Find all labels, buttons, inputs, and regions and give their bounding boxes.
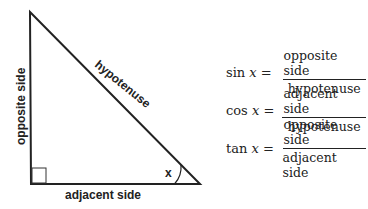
angle-arc	[175, 165, 182, 184]
variable: x	[252, 141, 259, 156]
adjacent-side-label: adjacent side	[65, 188, 141, 202]
variable: x	[252, 103, 259, 118]
tan-formula: tan x = opposite side adjacent side	[226, 129, 366, 167]
func-name: tan	[226, 141, 247, 156]
angle-x-label: x	[165, 166, 172, 180]
equals: =	[263, 141, 274, 156]
equals: =	[261, 65, 272, 80]
denominator: adjacent side	[283, 150, 366, 180]
triangle-shape	[30, 12, 200, 184]
func-name: sin	[226, 65, 245, 80]
opposite-side-label: opposite side	[14, 67, 28, 145]
numerator: adjacent side	[282, 86, 366, 116]
func-name: cos	[226, 103, 248, 118]
right-angle-marker	[32, 168, 46, 183]
numerator: opposite side	[283, 48, 366, 78]
fraction: opposite side adjacent side	[283, 117, 366, 180]
equals: =	[263, 103, 274, 118]
fraction-bar	[283, 79, 366, 80]
numerator: opposite side	[283, 117, 366, 147]
trig-formulas: sin x = opposite side hypotenuse cos x =…	[226, 53, 366, 167]
variable: x	[249, 65, 256, 80]
fraction-bar	[283, 148, 366, 149]
